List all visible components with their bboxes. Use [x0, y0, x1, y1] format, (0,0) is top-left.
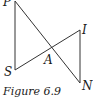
- point-label-S: S: [4, 66, 12, 78]
- figure-caption: Figure 6.9: [3, 85, 61, 98]
- point-label-P: P: [3, 0, 11, 8]
- point-label-A: A: [44, 54, 53, 66]
- segment-PN: [15, 1, 80, 83]
- point-label-I: I: [82, 24, 87, 36]
- point-label-N: N: [82, 80, 93, 92]
